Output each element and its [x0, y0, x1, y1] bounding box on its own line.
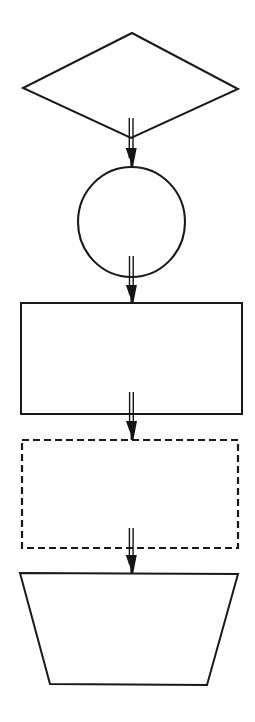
diamond-outline: [23, 33, 238, 138]
flowchart-svg: [0, 0, 255, 722]
node-trapezoid[interactable]: [20, 573, 238, 685]
node-diamond[interactable]: [23, 33, 238, 138]
trapezoid-outline: [20, 573, 238, 685]
flowchart-canvas: [0, 0, 255, 722]
node-circle[interactable]: [78, 167, 185, 277]
node-rectangle-solid[interactable]: [21, 303, 242, 414]
circle-outline: [78, 167, 185, 277]
rectangle-outline: [21, 303, 242, 414]
